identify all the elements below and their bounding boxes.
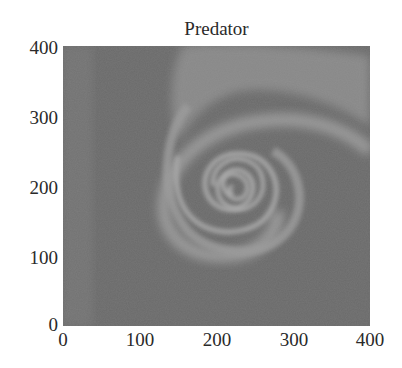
x-tick-label-0: 0 xyxy=(58,330,68,349)
x-tick-label-400: 400 xyxy=(356,330,385,349)
y-tick-label-100: 100 xyxy=(30,248,59,267)
y-tick-label-0: 0 xyxy=(49,315,59,334)
spiral-pattern xyxy=(63,46,370,326)
chart-title: Predator xyxy=(63,18,370,40)
y-tick-label-200: 200 xyxy=(30,178,59,197)
x-tick-label-100: 100 xyxy=(126,330,155,349)
x-tick-label-300: 300 xyxy=(280,330,309,349)
y-tick-label-400: 400 xyxy=(30,38,59,57)
y-tick-label-300: 300 xyxy=(30,108,59,127)
heatmap-plot-area xyxy=(63,46,370,326)
x-tick-label-200: 200 xyxy=(203,330,232,349)
